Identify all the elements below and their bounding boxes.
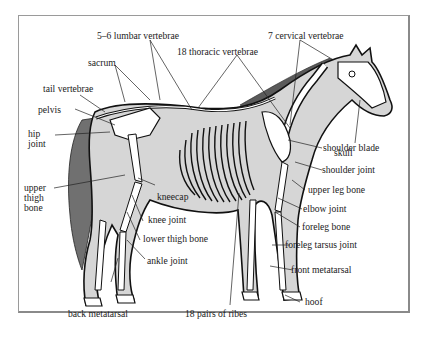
- label-back-metatarsal: back metatarsal: [68, 309, 128, 319]
- label-front-metatarsal: front metatarsal: [291, 265, 351, 275]
- label-ribs: 18 pairs of ribes: [185, 309, 247, 319]
- label-lower-thigh-bone: lower thigh bone: [143, 234, 208, 244]
- label-tail-vertebrae: tail vertebrae: [43, 84, 93, 94]
- label-ankle-joint: ankle joint: [147, 256, 188, 266]
- label-shoulder-blade: shoulder blade: [323, 143, 379, 153]
- hind-metatarsal-bone: [118, 232, 126, 290]
- label-elbow-joint: elbow joint: [303, 204, 346, 214]
- label-upper-thigh-line3: bone: [24, 203, 43, 213]
- label-thoracic-vertebrae: 18 thoracic vertebrae: [177, 47, 258, 57]
- label-hip-joint-line2: joint: [28, 139, 46, 149]
- label-foreleg-bone: foreleg bone: [302, 222, 350, 232]
- label-upper-leg-bone: upper leg bone: [308, 185, 365, 195]
- label-lumbar-vertebrae: 5–6 lumbar vertebrae: [97, 31, 179, 41]
- label-sacrum: sacrum: [88, 58, 116, 68]
- label-pelvis: pelvis: [38, 105, 61, 115]
- label-hoof: hoof: [305, 297, 323, 307]
- label-cervical-vertebrae: 7 cervical vertebrae: [268, 31, 344, 41]
- label-foreleg-tarsus-joint: foreleg tarsus joint: [285, 240, 357, 250]
- label-kneecap: kneecap: [157, 192, 188, 202]
- label-knee-joint: knee joint: [148, 215, 186, 225]
- label-shoulder-joint: shoulder joint: [322, 165, 375, 175]
